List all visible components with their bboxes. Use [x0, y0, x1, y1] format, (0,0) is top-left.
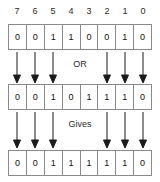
- bit-cell: 0: [27, 85, 45, 109]
- bit-cell: 0: [63, 85, 81, 109]
- bit-cell: 1: [45, 25, 63, 49]
- bit-cell: 0: [81, 25, 99, 49]
- bit-cell: 1: [45, 151, 63, 175]
- bit-cell: 0: [27, 151, 45, 175]
- bit-cell: 1: [116, 25, 134, 49]
- bit-cell: 1: [63, 151, 81, 175]
- bit-cell: 0: [9, 85, 27, 109]
- operator-label: OR: [58, 59, 102, 69]
- bit-cell: 1: [81, 85, 99, 109]
- bit-index-header: 7 6 5 4 3 2 1 0: [8, 2, 152, 20]
- bit-index-label: 6: [26, 2, 44, 20]
- bit-cell: 1: [116, 85, 134, 109]
- bit-index-label: 5: [44, 2, 62, 20]
- bit-index-label: 3: [80, 2, 98, 20]
- bit-cell: 1: [98, 85, 116, 109]
- bit-index-label: 7: [8, 2, 26, 20]
- bit-cell: 0: [9, 151, 27, 175]
- bit-cell: 0: [134, 25, 151, 49]
- bit-cell: 0: [27, 25, 45, 49]
- bit-cell: 0: [9, 25, 27, 49]
- bit-index-label: 1: [116, 2, 134, 20]
- bit-index-label: 2: [98, 2, 116, 20]
- bit-cell: 1: [63, 25, 81, 49]
- arrow-band-result: [8, 110, 152, 150]
- bit-cell: 1: [45, 85, 63, 109]
- down-arrows-icon: [8, 110, 152, 150]
- bit-index-label: 0: [134, 2, 152, 20]
- bitwise-or-diagram: 7 6 5 4 3 2 1 0 0 0 1 1 0 0 1 0 OR: [0, 0, 160, 182]
- bit-cell: 1: [116, 151, 134, 175]
- bit-cell: 1: [98, 151, 116, 175]
- result-label: Gives: [58, 119, 102, 129]
- bit-cell: 0: [134, 85, 151, 109]
- bit-cell: 0: [134, 151, 151, 175]
- bit-index-label: 4: [62, 2, 80, 20]
- result-row: 0 0 1 1 1 1 1 0: [8, 150, 152, 176]
- bit-cell: 0: [98, 25, 116, 49]
- bit-cell: 1: [81, 151, 99, 175]
- operand-a-row: 0 0 1 1 0 0 1 0: [8, 24, 152, 50]
- operand-b-row: 0 0 1 0 1 1 1 0: [8, 84, 152, 110]
